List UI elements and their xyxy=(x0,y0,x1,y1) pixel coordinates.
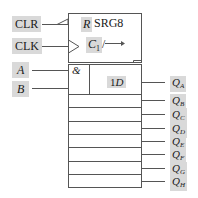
register-title: SRG8 xyxy=(94,16,123,31)
input-label-clr: CLR xyxy=(12,16,41,32)
input-label-b: B xyxy=(12,81,29,97)
clock-label: C1 xyxy=(86,37,102,53)
reset-label: R xyxy=(81,17,92,32)
shift-slash: / xyxy=(102,37,105,52)
input-label-a: A xyxy=(12,62,29,78)
input-label-clk: CLK xyxy=(12,38,42,54)
data-input-label: 1D xyxy=(107,76,126,88)
output-label-qh: QH xyxy=(170,175,187,191)
output-label-qa: QA xyxy=(170,76,186,92)
and-gate-label: & xyxy=(72,64,81,76)
